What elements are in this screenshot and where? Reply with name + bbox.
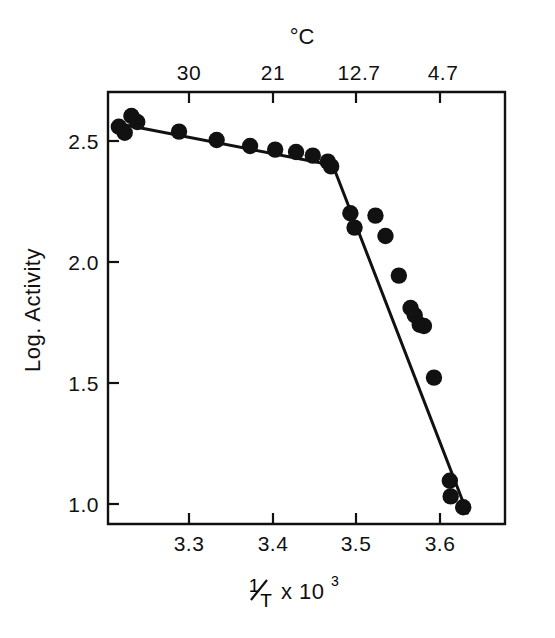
data-point xyxy=(171,123,187,139)
data-point-group xyxy=(111,108,472,516)
data-point xyxy=(442,488,458,504)
data-point xyxy=(267,141,283,157)
top-tick-label-1: 21 xyxy=(261,61,285,84)
top-tick-label-3: 4.7 xyxy=(428,61,459,84)
x-axis-tick-labels: 3.3 3.4 3.5 3.6 xyxy=(174,532,456,555)
x-axis-title-rest: x 10 xyxy=(281,579,325,604)
data-point xyxy=(426,369,442,385)
x-axis-title-denominator: T xyxy=(260,590,272,611)
data-point xyxy=(288,144,304,160)
y-axis-title: Log. Activity xyxy=(20,248,45,372)
y-tick-label-2-5: 2.5 xyxy=(68,130,99,153)
data-point xyxy=(305,147,321,163)
x-axis-title: 1 T x 10 3 xyxy=(249,573,339,611)
y-axis-ticks xyxy=(108,141,119,504)
data-point xyxy=(242,138,258,154)
arrhenius-plot-figure: 30 21 12.7 4.7 °C 3.3 3.4 3.5 3.6 1 T x … xyxy=(0,0,555,638)
y-tick-label-2-0: 2.0 xyxy=(68,251,99,274)
data-point xyxy=(342,205,358,221)
y-tick-label-1-0: 1.0 xyxy=(68,493,99,516)
data-point xyxy=(117,125,133,141)
x-tick-label-3: 3.6 xyxy=(425,532,456,555)
chart-canvas: 30 21 12.7 4.7 °C 3.3 3.4 3.5 3.6 1 T x … xyxy=(0,0,555,638)
data-point xyxy=(391,267,407,283)
data-point xyxy=(442,473,458,489)
x-axis-title-exponent: 3 xyxy=(331,573,339,589)
top-axis-tick-labels: 30 21 12.7 4.7 xyxy=(177,61,459,84)
data-point xyxy=(129,114,145,130)
x-tick-label-1: 3.4 xyxy=(258,532,289,555)
top-axis-title: °C xyxy=(290,24,315,49)
top-tick-label-2: 12.7 xyxy=(338,61,381,84)
y-tick-label-1-5: 1.5 xyxy=(68,372,99,395)
top-axis-ticks xyxy=(189,92,440,103)
data-point xyxy=(323,158,339,174)
data-point xyxy=(346,219,362,235)
data-point xyxy=(367,207,383,223)
data-point xyxy=(416,318,432,334)
data-point xyxy=(455,499,471,515)
bottom-axis-ticks xyxy=(189,513,440,524)
y-axis-tick-labels: 2.5 2.0 1.5 1.0 xyxy=(68,130,99,516)
top-tick-label-0: 30 xyxy=(177,61,201,84)
data-point xyxy=(208,132,224,148)
x-tick-label-2: 3.5 xyxy=(341,532,372,555)
x-tick-label-0: 3.3 xyxy=(174,532,205,555)
data-point xyxy=(377,228,393,244)
